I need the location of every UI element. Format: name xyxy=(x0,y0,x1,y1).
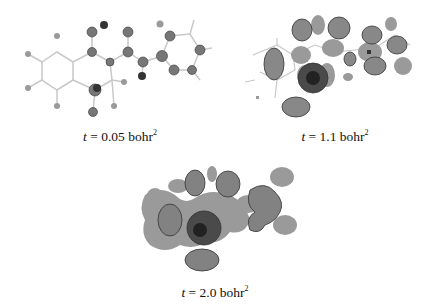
caption-unit: bohr xyxy=(128,129,153,144)
caption-equals: = xyxy=(185,285,199,300)
caption-t-0.05: t = 0.05 bohr2 xyxy=(70,128,170,145)
caption-unit: bohr xyxy=(340,129,365,144)
caption-t-2.0: t = 2.0 bohr2 xyxy=(165,284,265,301)
orbital-isosurface-image xyxy=(215,0,429,125)
caption-exponent: 2 xyxy=(245,284,249,293)
caption-value: 0.05 xyxy=(101,129,125,144)
caption-equals: = xyxy=(305,129,319,144)
caption-value: 2.0 xyxy=(200,285,217,300)
caption-unit: bohr xyxy=(220,285,245,300)
panel-t-1.1: t = 1.1 bohr2 xyxy=(215,0,429,150)
caption-t-1.1: t = 1.1 bohr2 xyxy=(285,128,385,145)
caption-exponent: 2 xyxy=(365,128,369,137)
molecule-ball-stick-image xyxy=(0,0,215,125)
panel-t-0.05: t = 0.05 bohr2 xyxy=(0,0,215,150)
caption-equals: = xyxy=(87,129,101,144)
panel-t-2.0: t = 2.0 bohr2 xyxy=(100,150,330,307)
caption-exponent: 2 xyxy=(153,128,157,137)
orbital-isosurface-image xyxy=(100,150,330,280)
caption-value: 1.1 xyxy=(320,129,337,144)
